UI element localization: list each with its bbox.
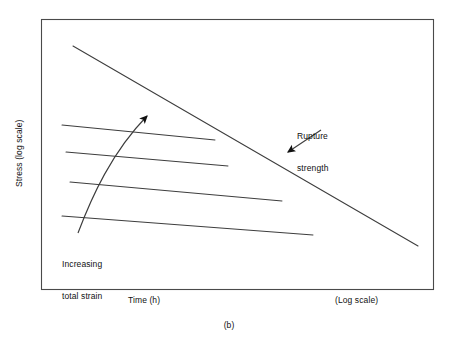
rupture-strength-annotation: Rupture strength <box>297 110 329 194</box>
figure-caption: (b) <box>0 320 458 331</box>
figure-root: Stress (log scale) Time (h) (Log scale) … <box>0 0 458 341</box>
strain-annotation-line-1: Increasing <box>62 259 102 270</box>
x-axis-label: Time (h) <box>128 295 160 306</box>
strain-annotation-line-2: total strain <box>62 291 102 302</box>
y-axis-label: Stress (log scale) <box>14 103 25 203</box>
rupture-annotation-line-1: Rupture <box>297 131 329 142</box>
increasing-strain-annotation: Increasing total strain <box>62 238 102 322</box>
x-axis-scale-note: (Log scale) <box>335 295 378 306</box>
rupture-annotation-line-2: strength <box>297 163 329 174</box>
